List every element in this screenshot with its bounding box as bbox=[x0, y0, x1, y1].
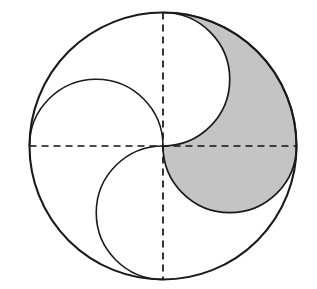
geometric-figure-svg bbox=[0, 0, 317, 289]
